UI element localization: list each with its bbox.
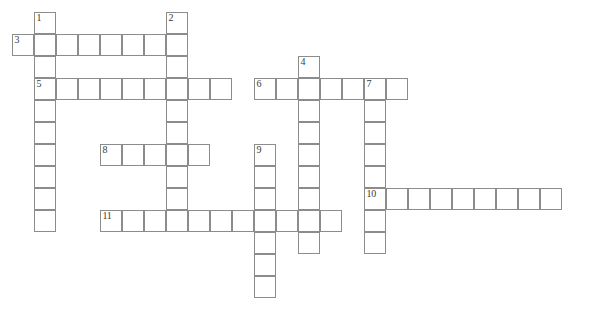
crossword-cell[interactable]: [254, 276, 276, 298]
crossword-cell[interactable]: [100, 78, 122, 100]
crossword-cell[interactable]: [56, 78, 78, 100]
crossword-cell[interactable]: [298, 188, 320, 210]
cell-number-label: 4: [301, 56, 306, 67]
crossword-cell[interactable]: [276, 210, 298, 232]
cell-number-label: 8: [103, 144, 108, 155]
cell-number-label: 9: [257, 144, 262, 155]
crossword-cell[interactable]: [474, 188, 496, 210]
crossword-cell[interactable]: [364, 166, 386, 188]
crossword-cell[interactable]: [166, 122, 188, 144]
crossword-cell[interactable]: [122, 210, 144, 232]
crossword-cell[interactable]: [34, 166, 56, 188]
cell-number-label: 1: [37, 12, 42, 23]
crossword-cell[interactable]: [188, 210, 210, 232]
crossword-cell[interactable]: [364, 232, 386, 254]
crossword-cell[interactable]: [166, 144, 188, 166]
crossword-cell[interactable]: [298, 100, 320, 122]
crossword-cell[interactable]: [166, 188, 188, 210]
cell-number-label: 3: [15, 34, 20, 45]
crossword-cell[interactable]: [210, 78, 232, 100]
crossword-cell[interactable]: [254, 188, 276, 210]
crossword-cell[interactable]: [144, 210, 166, 232]
crossword-cell[interactable]: [496, 188, 518, 210]
crossword-cell[interactable]: [386, 78, 408, 100]
crossword-cell[interactable]: [298, 210, 320, 232]
crossword-cell-numbered[interactable]: 9: [254, 144, 276, 166]
crossword-cell[interactable]: [254, 210, 276, 232]
crossword-cell[interactable]: [298, 122, 320, 144]
crossword-grid[interactable]: 1523467108911: [0, 0, 590, 317]
crossword-cell[interactable]: [364, 122, 386, 144]
crossword-cell[interactable]: [408, 188, 430, 210]
crossword-cell[interactable]: [254, 254, 276, 276]
crossword-cell-numbered[interactable]: 8: [100, 144, 122, 166]
crossword-cell[interactable]: [452, 188, 474, 210]
crossword-cell-numbered[interactable]: 10: [364, 188, 386, 210]
crossword-cell[interactable]: [188, 144, 210, 166]
crossword-cell[interactable]: [298, 232, 320, 254]
crossword-cell[interactable]: [166, 210, 188, 232]
crossword-cell[interactable]: [34, 100, 56, 122]
crossword-cell[interactable]: [34, 188, 56, 210]
crossword-cell[interactable]: [34, 34, 56, 56]
crossword-cell-numbered[interactable]: 6: [254, 78, 276, 100]
crossword-cell[interactable]: [122, 34, 144, 56]
crossword-cell-numbered[interactable]: 4: [298, 56, 320, 78]
crossword-cell[interactable]: [298, 78, 320, 100]
cell-number-label: 5: [37, 78, 42, 89]
crossword-cell[interactable]: [298, 144, 320, 166]
crossword-cell[interactable]: [144, 34, 166, 56]
cell-number-label: 11: [103, 210, 112, 221]
crossword-cell[interactable]: [364, 144, 386, 166]
crossword-cell[interactable]: [210, 210, 232, 232]
crossword-cell[interactable]: [364, 210, 386, 232]
crossword-cell[interactable]: [78, 78, 100, 100]
crossword-cell[interactable]: [254, 232, 276, 254]
cell-number-label: 6: [257, 78, 262, 89]
crossword-cell[interactable]: [430, 188, 452, 210]
crossword-cell[interactable]: [122, 144, 144, 166]
crossword-cell[interactable]: [188, 78, 210, 100]
crossword-cell[interactable]: [386, 188, 408, 210]
crossword-cell[interactable]: [144, 78, 166, 100]
crossword-cell[interactable]: [56, 34, 78, 56]
crossword-cell[interactable]: [166, 166, 188, 188]
crossword-cell-numbered[interactable]: 1: [34, 12, 56, 34]
crossword-cell[interactable]: [540, 188, 562, 210]
crossword-cell[interactable]: [166, 56, 188, 78]
crossword-cell-numbered[interactable]: 11: [100, 210, 122, 232]
crossword-cell[interactable]: [166, 78, 188, 100]
crossword-cell[interactable]: [320, 210, 342, 232]
cell-number-label: 2: [169, 12, 174, 23]
crossword-cell-numbered[interactable]: 7: [364, 78, 386, 100]
crossword-cell[interactable]: [34, 144, 56, 166]
crossword-cell[interactable]: [364, 100, 386, 122]
crossword-cell[interactable]: [232, 210, 254, 232]
crossword-cell[interactable]: [122, 78, 144, 100]
crossword-cell[interactable]: [320, 78, 342, 100]
crossword-cell-numbered[interactable]: 5: [34, 78, 56, 100]
crossword-cell[interactable]: [100, 34, 122, 56]
crossword-cell[interactable]: [298, 166, 320, 188]
crossword-cell[interactable]: [342, 78, 364, 100]
crossword-cell[interactable]: [518, 188, 540, 210]
crossword-cell[interactable]: [34, 56, 56, 78]
cell-number-label: 7: [367, 78, 372, 89]
crossword-cell[interactable]: [166, 34, 188, 56]
crossword-cell[interactable]: [144, 144, 166, 166]
crossword-cell[interactable]: [276, 78, 298, 100]
crossword-cell-numbered[interactable]: 2: [166, 12, 188, 34]
crossword-cell[interactable]: [166, 100, 188, 122]
crossword-cell[interactable]: [78, 34, 100, 56]
cell-number-label: 10: [367, 188, 376, 199]
crossword-cell[interactable]: [34, 122, 56, 144]
crossword-cell[interactable]: [254, 166, 276, 188]
crossword-cell[interactable]: [34, 210, 56, 232]
crossword-cell-numbered[interactable]: 3: [12, 34, 34, 56]
